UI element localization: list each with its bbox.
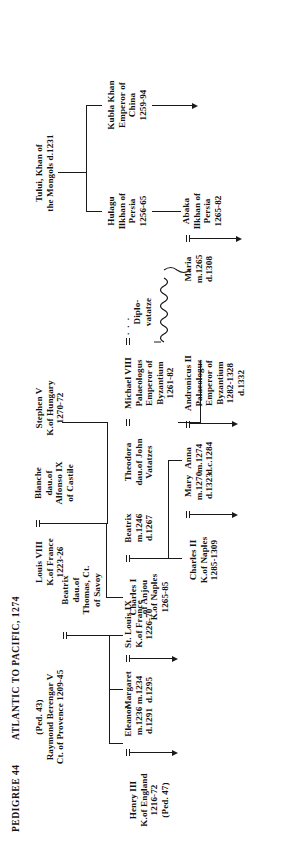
continuation-arrow-abaka (236, 237, 242, 243)
person-raymond-berengar-v: (Ped. 43) Raymond Berengar V Ct. of Prov… (34, 642, 66, 792)
person-line: d.1332 (236, 346, 247, 420)
person-andronicus-ii: Andronicus II Palaeologus Emperor of Byz… (183, 346, 247, 420)
connector-henry-continuation (130, 752, 174, 753)
connector-drop-margaret (109, 689, 123, 690)
pedigree-number-label: PEDIGREE 44 (10, 764, 21, 832)
person-line: m.1246 (134, 502, 145, 554)
continuation-arrow-andronicus (232, 422, 238, 428)
connector-hulagu-descent (152, 211, 181, 212)
person-line: (Ped. 43) (34, 642, 45, 792)
person-line: K.of Naples (199, 520, 210, 600)
person-line: Byzantium (155, 348, 166, 418)
person-line: of Savoy (92, 551, 103, 629)
illegitimate-union-dots: . . . (121, 317, 131, 335)
connector-stephen-v-descent (62, 422, 107, 423)
person-line: 1261-82 (165, 348, 176, 418)
person-line: Theodora (123, 428, 134, 496)
connector-charles-i-children-bus (168, 461, 169, 559)
connector-louis-viii-sibling-bus (106, 523, 107, 598)
person-line: Blanche (33, 448, 44, 518)
person-maria: Maria m.1265 d.1308 (183, 243, 215, 295)
person-line: m.1265 (194, 243, 205, 295)
connector-drop-kubla (86, 105, 102, 106)
person-line: dau.of (44, 448, 55, 518)
person-hulagu: Hulagu Ilkhan of Persia 1256-65 (106, 180, 148, 242)
person-line: the Mongols d.1231 (45, 108, 56, 238)
person-beatrix-of-provence: Beatrix m.1246 d.1267 (123, 502, 155, 554)
person-line: K.of Naples (149, 564, 160, 630)
person-line: Diplo- (132, 284, 143, 340)
person-line: 1256-65 (138, 180, 149, 242)
marriage-symbol-theodora-michael (126, 419, 130, 426)
continuation-arrow-charlesii (232, 513, 238, 519)
person-line: Vatatzes (144, 428, 155, 496)
person-line: d.1267 (144, 502, 155, 554)
person-stephen-v: Stephen V K.of Hungary 1270-72 (34, 370, 66, 446)
connector-charles-i-descent (130, 558, 168, 559)
continuation-arrow-kubla (192, 104, 198, 110)
person-line: Emperor of (204, 346, 215, 420)
connector-drop-anna (168, 460, 182, 461)
connector-drop-hulagu (86, 211, 102, 212)
person-line: Henry III (128, 758, 139, 842)
person-line: dau.of (71, 551, 82, 629)
person-line: Charles I (128, 564, 139, 630)
connector-drop-charles-ii (168, 558, 182, 559)
person-line: Maria (183, 243, 194, 295)
connector-drop-charles-i (106, 597, 123, 598)
person-line: Thomas, Ct. (81, 551, 92, 629)
person-line: Persia (202, 180, 213, 242)
person-anna: Anna m.1274 d.c.1284 (183, 430, 215, 486)
connector-kubla-continuation (152, 105, 194, 106)
connector-andronicus-continuation (190, 423, 234, 424)
person-abaka: Abaka Ilkhan of Persia 1265-82 (181, 180, 223, 242)
person-line: Byzantium (215, 346, 226, 420)
person-line: d.1295 (144, 664, 155, 716)
person-line: Anna (183, 430, 194, 486)
connector-tului-descent (58, 172, 86, 173)
person-line: Palaeologus (194, 346, 205, 420)
person-line: 1270-72 (55, 370, 66, 446)
person-line: d.c.1284 (204, 430, 215, 486)
person-line: China (127, 68, 138, 142)
person-line: Alfonso IX (54, 448, 65, 518)
person-line: K.of Hungary (45, 370, 56, 446)
continuation-arrow-henry (172, 751, 178, 757)
person-line: Andronicus II (183, 346, 194, 420)
person-louis-viii: Louis VIII K.of France 1223-26 (34, 529, 66, 595)
person-line: d.1308 (204, 243, 215, 295)
person-line: Emperor of (144, 348, 155, 418)
person-line: Ct. of Provence 1209-45 (55, 642, 66, 792)
person-henry-iii: Henry III K.of England 1216-72 (Ped. 47) (128, 758, 170, 842)
person-line: Ilkhan of (117, 180, 128, 242)
person-line: K.of France (45, 529, 56, 595)
person-line: Michael VIII (123, 348, 134, 418)
person-line: 1285-1309 (209, 520, 220, 600)
person-line: Louis VIII (34, 529, 45, 595)
person-charles-i: Charles I of Anjou K.of Naples 1265-85 (128, 564, 170, 630)
person-line: 1265-82 (213, 180, 224, 242)
person-line: 1216-72 (149, 758, 160, 842)
person-line: Emperor of (117, 68, 128, 142)
connector-louis-viii-descent (40, 523, 106, 524)
continuation-arrow-louis (172, 657, 178, 663)
person-line: m.1274 (194, 430, 205, 486)
person-line: Beatrix (123, 502, 134, 554)
person-charles-ii: Charles II K.of Naples 1285-1309 (188, 520, 220, 600)
connector-abaka-continuation (190, 238, 238, 239)
pedigree-chart: PEDIGREE 44 ATLANTIC TO PACIFIC, 1274 (P… (0, 0, 294, 848)
rotated-page-frame: PEDIGREE 44 ATLANTIC TO PACIFIC, 1274 (P… (0, 0, 294, 848)
person-blanche: Blanche dau.of Alfonso IX of Castile (33, 448, 75, 518)
connector-charlesii-continuation (190, 514, 234, 515)
person-line: (Ped. 47) (160, 758, 171, 842)
page-title: ATLANTIC TO PACIFIC, 1274 (10, 596, 21, 740)
person-line: 1259-94 (138, 68, 149, 142)
person-line: Persia (127, 180, 138, 242)
person-margaret: Margaret m.1234 d.1295 (123, 664, 155, 716)
person-line: 1223-26 (55, 529, 66, 595)
person-line: dau.of John (134, 428, 145, 496)
person-line: K.of England (139, 758, 150, 842)
person-kubla-khan: Kubla Khan Emperor of China 1259-94 (106, 68, 148, 142)
person-michael-viii: Michael VIII Palaeologus Emperor of Byza… (123, 348, 176, 418)
person-line: 1265-85 (160, 564, 171, 630)
